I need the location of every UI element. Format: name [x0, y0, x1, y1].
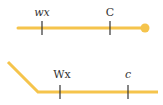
label-wx: wx [34, 6, 50, 19]
label-c: c [125, 68, 131, 81]
diagram-canvas [0, 0, 163, 105]
bottom-line [8, 62, 158, 92]
label-C: C [106, 6, 114, 19]
endpoint-circle [141, 24, 150, 33]
label-Wx: Wx [53, 68, 71, 81]
top-line-diagram [18, 21, 150, 35]
bottom-line-diagram [8, 62, 158, 99]
